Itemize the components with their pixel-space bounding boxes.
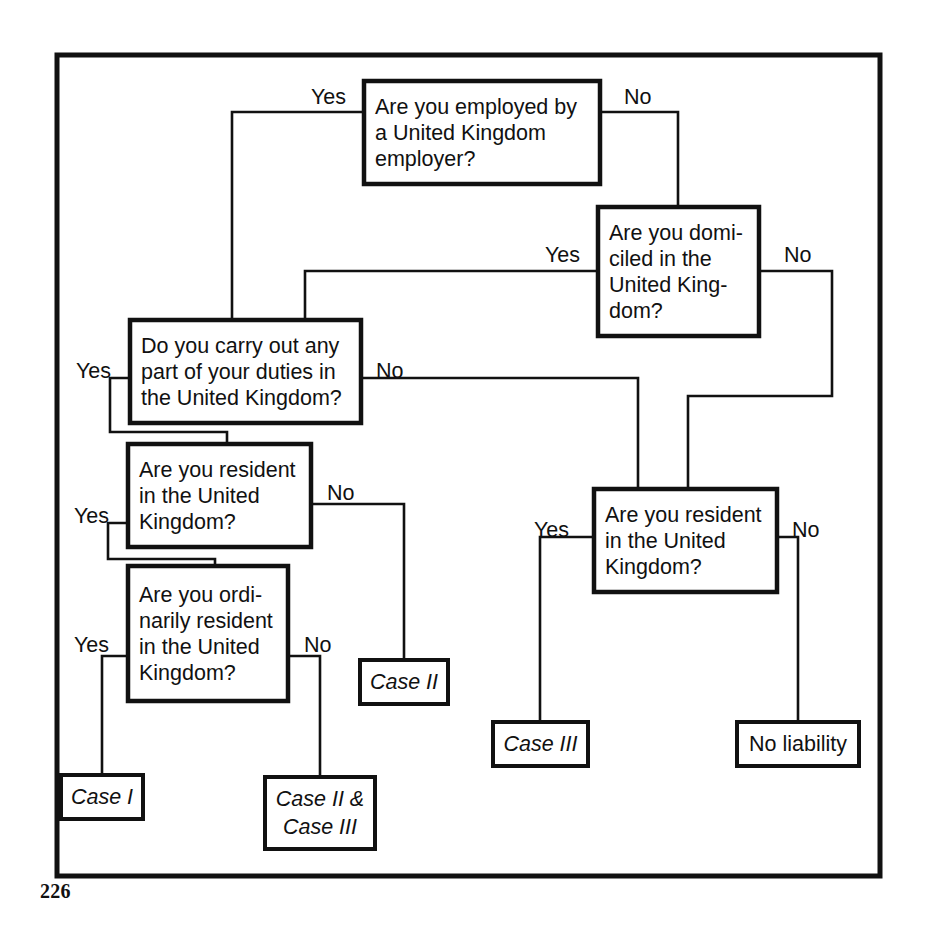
branch-label-resident-right-yes: Yes [534, 518, 569, 542]
terminal-text-line: Case II & [276, 787, 364, 811]
connector-ordinarily-no-to-case-2-and-3 [288, 656, 320, 777]
decision-text-line: Are you resident [139, 458, 296, 482]
terminal-text-line: Case II [370, 670, 438, 694]
decision-node-q-duties-in-uk: Do you carry out anypart of your duties … [130, 320, 361, 423]
decision-text-line: part of your duties in [141, 360, 336, 384]
decision-text-line: Are you domi- [609, 221, 743, 245]
decision-node-layer: Are you employed bya United Kingdomemplo… [128, 81, 777, 701]
decision-text-line: Are you employed by [375, 95, 577, 119]
branch-label-ordinarily-no: No [304, 633, 332, 657]
decision-text-line: a United Kingdom [375, 121, 546, 145]
terminal-text-line: Case I [71, 785, 133, 809]
branch-label-employed-no: No [624, 85, 652, 109]
connector-employed-yes-to-duties [232, 112, 364, 320]
decision-text-line: dom? [609, 299, 663, 323]
decision-node-q-resident-in-uk-right: Are you residentin the UnitedKingdom? [594, 489, 777, 592]
decision-text-line: employer? [375, 147, 475, 171]
branch-label-domiciled-no: No [784, 243, 812, 267]
connector-resident-right-yes-to-case-3 [540, 537, 594, 722]
decision-text-line: Kingdom? [139, 661, 236, 685]
branch-label-domiciled-yes: Yes [545, 243, 580, 267]
branch-label-ordinarily-yes: Yes [74, 633, 109, 657]
terminal-text-line: No liability [749, 732, 847, 756]
connector-resident-right-no-to-no-liability [777, 537, 798, 722]
terminal-text-line: Case III [283, 815, 357, 839]
branch-label-resident-left-yes: Yes [74, 504, 109, 528]
decision-text-line: Kingdom? [605, 555, 702, 579]
decision-text-line: the United Kingdom? [141, 386, 342, 410]
page-number: 226 [40, 880, 71, 903]
decision-text-line: Are you resident [605, 503, 762, 527]
terminal-text-line: Case III [503, 732, 577, 756]
connector-ordinarily-yes-to-case-1 [102, 656, 128, 775]
terminal-node-case-ii: Case II [360, 660, 448, 704]
decision-node-q-domiciled-in-uk: Are you domi-ciled in theUnited King-dom… [598, 207, 759, 336]
decision-text-line: narily resident [139, 609, 273, 633]
terminal-node-case-ii-and-case-iii: Case II &Case III [265, 777, 375, 849]
branch-label-employed-yes: Yes [311, 85, 346, 109]
connector-domiciled-yes-to-duties [305, 271, 598, 320]
connector-employed-no-to-domiciled [600, 112, 678, 207]
decision-text-line: Do you carry out any [141, 334, 340, 358]
branch-label-duties-no: No [376, 359, 404, 383]
flowchart-canvas: Are you employed bya United Kingdomemplo… [0, 0, 935, 933]
terminal-node-no-liability: No liability [737, 722, 859, 766]
decision-text-line: Are you ordi- [139, 583, 262, 607]
branch-label-resident-right-no: No [792, 518, 820, 542]
branch-label-duties-yes: Yes [76, 359, 111, 383]
decision-node-q-employed-by-uk-employer: Are you employed bya United Kingdomemplo… [364, 81, 600, 184]
decision-text-line: United King- [609, 273, 727, 297]
decision-text-line: Kingdom? [139, 510, 236, 534]
decision-text-line: in the United [139, 484, 260, 508]
connector-duties-no-to-resident-right [361, 378, 638, 489]
branch-label-resident-left-no: No [327, 481, 355, 505]
decision-text-line: in the United [139, 635, 260, 659]
terminal-node-case-i: Case I [61, 775, 143, 819]
decision-text-line: ciled in the [609, 247, 712, 271]
decision-text-line: in the United [605, 529, 726, 553]
terminal-node-case-iii: Case III [493, 722, 588, 766]
decision-node-q-resident-in-uk-left: Are you residentin the UnitedKingdom? [128, 444, 311, 547]
flowchart-figure: Are you employed bya United Kingdomemplo… [0, 0, 935, 933]
decision-node-q-ordinarily-resident-in-uk: Are you ordi-narily residentin the Unite… [128, 566, 288, 701]
